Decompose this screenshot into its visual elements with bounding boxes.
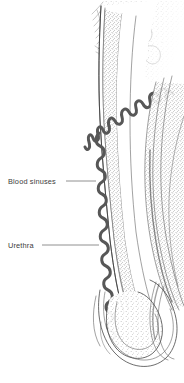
figure-illustration: Blood sinuses Urethra (0, 0, 184, 383)
label-blood-sinuses: Blood sinuses (8, 177, 56, 186)
label-urethra: Urethra (8, 241, 34, 250)
anatomical-figure: Blood sinuses Urethra (0, 0, 184, 383)
